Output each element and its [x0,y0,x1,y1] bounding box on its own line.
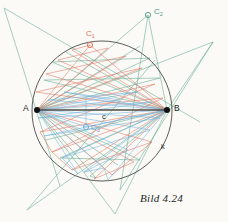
label-c3-sub: 3 [97,127,100,133]
geometry-figure: A B c k C1 C2 C3 Bild 4.24 [0,0,228,222]
label-point-c2: C2 [154,8,163,16]
label-point-c1: C1 [86,30,95,38]
label-c3-base: C [91,123,97,132]
label-segment-c: c [102,113,106,121]
figure-canvas [0,0,228,222]
point-A-marker[interactable] [34,107,40,113]
label-c1-base: C [86,29,92,38]
label-c1-sub: 1 [92,33,95,39]
label-point-a: A [23,104,29,113]
label-circle-k: k [161,143,165,151]
label-point-c3: C3 [91,124,100,132]
point-C2-marker[interactable] [145,12,150,17]
label-point-b: B [174,104,180,113]
label-c2-sub: 2 [160,11,163,17]
figure-caption: Bild 4.24 [140,192,183,204]
label-c2-base: C [154,7,160,16]
point-B-marker[interactable] [164,107,170,113]
